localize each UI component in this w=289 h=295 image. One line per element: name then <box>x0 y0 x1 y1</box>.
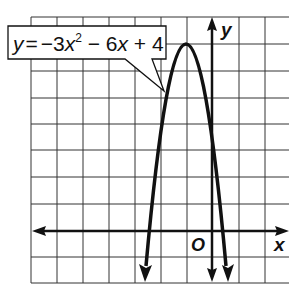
y-axis-up-arrow-icon <box>207 17 217 31</box>
x-axis-left-arrow-icon <box>32 226 46 236</box>
curve-right-arrow-icon <box>222 264 234 282</box>
origin-label: O <box>191 235 205 255</box>
y-axis-label: y <box>220 19 233 40</box>
equation-callout: y=−3x2 − 6x + 4 <box>8 26 166 91</box>
parabola-graph: y x O y=−3x2 − 6x + 4 <box>0 0 289 295</box>
curve-left-arrow-icon <box>139 264 152 282</box>
y-axis-down-arrow-icon <box>207 268 217 282</box>
x-axis-label: x <box>273 234 286 255</box>
equation-label: y=−3x2 − 6x + 4 <box>11 31 164 55</box>
